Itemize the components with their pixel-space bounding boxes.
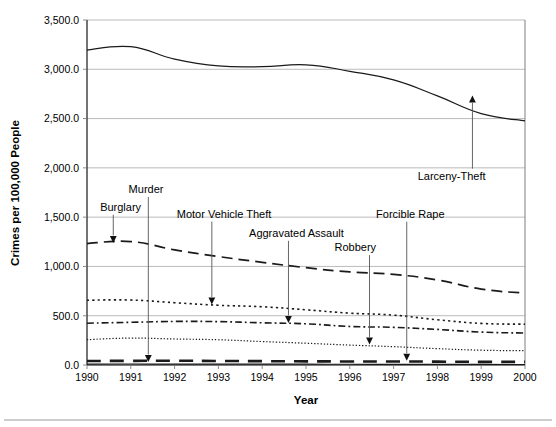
x-tick-label: 1996 xyxy=(338,371,362,383)
x-tick-label: 1998 xyxy=(426,371,450,383)
annotation-label-forcible-rape: Forcible Rape xyxy=(376,208,444,220)
crime-rate-line-chart: 0.0500.01,000.01,500.02,000.02,500.03,00… xyxy=(0,0,556,427)
x-tick-label: 1993 xyxy=(207,371,231,383)
x-tick-label: 1995 xyxy=(294,371,318,383)
y-tick-label: 3,000.0 xyxy=(44,63,79,75)
y-tick-label: 2,500.0 xyxy=(44,112,79,124)
x-tick-label: 1992 xyxy=(163,371,187,383)
x-tick-label: 1997 xyxy=(382,371,406,383)
annotation-label-larceny-theft: Larceny-Theft xyxy=(418,170,486,182)
annotation-label-motor-vehicle-theft: Motor Vehicle Theft xyxy=(177,208,272,220)
x-tick-label: 1994 xyxy=(251,371,275,383)
x-tick-label: 1999 xyxy=(470,371,494,383)
annotation-label-aggravated-assault: Aggravated Assault xyxy=(249,227,344,239)
x-tick-label: 1991 xyxy=(119,371,143,383)
y-tick-label: 500.0 xyxy=(53,310,79,322)
y-tick-label: 1,500.0 xyxy=(44,211,79,223)
y-tick-label: 1,000.0 xyxy=(44,260,79,272)
y-tick-label: 2,000.0 xyxy=(44,162,79,174)
y-tick-label: 0.0 xyxy=(64,359,79,371)
annotation-label-burglary: Burglary xyxy=(100,201,141,213)
annotation-label-murder: Murder xyxy=(129,183,164,195)
x-tick-label: 2000 xyxy=(513,371,537,383)
chart-background xyxy=(0,0,556,427)
y-axis-title: Crimes per 100,000 People xyxy=(9,120,21,266)
y-tick-label: 3,500.0 xyxy=(44,14,79,26)
x-axis-title: Year xyxy=(294,394,319,406)
annotation-label-robbery: Robbery xyxy=(334,241,376,253)
x-tick-label: 1990 xyxy=(75,371,99,383)
